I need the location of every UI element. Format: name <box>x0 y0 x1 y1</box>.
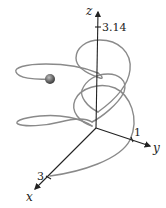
x-axis-label: x <box>26 190 33 204</box>
sphere-marker <box>45 74 55 84</box>
z-axis <box>96 12 98 128</box>
y-axis-label: y <box>152 141 160 155</box>
z-axis-label: z <box>85 4 93 18</box>
z-tick-label: 3.14 <box>102 21 127 34</box>
x-axis <box>35 128 96 189</box>
space-curve <box>16 40 134 176</box>
y-tick-label: 1 <box>134 126 141 139</box>
axes <box>35 12 150 189</box>
y-axis <box>96 128 150 146</box>
space-curve-diagram: z 3.14 y 1 x 3 <box>0 0 166 208</box>
x-tick-label: 3 <box>37 170 44 183</box>
